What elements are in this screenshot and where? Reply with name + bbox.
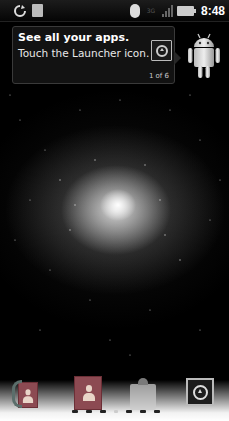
person-icon [83, 385, 95, 403]
sync-icon [14, 5, 26, 17]
dock-launcher-button[interactable] [184, 376, 214, 412]
page-dot [100, 410, 106, 413]
signal-strength-icon [162, 5, 173, 17]
status-bar[interactable]: 3G 8:48 [0, 0, 229, 22]
battery-charging-icon [177, 6, 194, 16]
messaging-icon [130, 384, 156, 410]
page-dot [72, 410, 78, 413]
page-dot [140, 410, 146, 413]
tooltip-body: Touch the Launcher icon. [18, 47, 149, 59]
3g-network-icon: 3G [144, 8, 158, 14]
handset-icon [12, 380, 22, 408]
clock: 8:48 [201, 4, 225, 18]
bluetooth-icon [130, 4, 140, 18]
person-icon [23, 389, 33, 404]
home-screen: 3G 8:48 See all your apps. Touch the Lau… [0, 0, 229, 421]
launcher-icon [151, 40, 172, 61]
dock-phone-button[interactable] [12, 376, 42, 412]
page-dot-current [114, 410, 118, 413]
dock-contacts-button[interactable] [72, 376, 102, 412]
page-dot [86, 410, 92, 413]
launcher-hint-tooltip[interactable]: See all your apps. Touch the Launcher ic… [12, 26, 175, 84]
usb-debugging-icon [32, 4, 43, 17]
contacts-icon [74, 376, 102, 410]
tooltip-counter: 1 of 6 [149, 72, 169, 80]
page-dot [154, 410, 160, 413]
launcher-icon [186, 378, 214, 406]
android-mascot-icon [187, 32, 221, 80]
dock-messaging-button[interactable] [128, 376, 158, 412]
page-indicator [72, 410, 162, 414]
tooltip-title: See all your apps. [18, 31, 129, 44]
page-dot [126, 410, 132, 413]
